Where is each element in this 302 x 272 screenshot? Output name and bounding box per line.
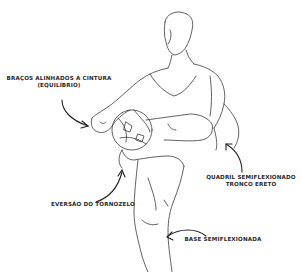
annotation-arms-line2: (EQUILÍBRIO): [4, 82, 114, 89]
annotation-arms-line1: BRAÇOS ALINHADOS À CINTURA: [4, 75, 114, 82]
head-outline: [164, 12, 192, 55]
illustration-canvas: BRAÇOS ALINHADOS À CINTURA (EQUILÍBRIO) …: [0, 0, 302, 272]
annotation-arms: BRAÇOS ALINHADOS À CINTURA (EQUILÍBRIO): [4, 75, 114, 89]
standing-leg-outline: [134, 160, 148, 272]
annotation-hip-line2: TRONCO ERETO: [200, 181, 302, 188]
raised-leg-outline: [122, 150, 184, 166]
annotation-ankle: EVERSÃO DO TORNOZELO: [48, 201, 138, 208]
figure-line-art: [0, 0, 302, 272]
annotation-hip: QUADRIL SEMIFLEXIONADO TRONCO ERETO: [200, 174, 302, 188]
annotation-base-line1: BASE SEMIFLEXIONADA: [183, 236, 263, 243]
annotation-base: BASE SEMIFLEXIONADA: [183, 236, 263, 243]
annotation-hip-line1: QUADRIL SEMIFLEXIONADO: [200, 174, 302, 181]
annotation-ankle-line1: EVERSÃO DO TORNOZELO: [48, 201, 138, 208]
